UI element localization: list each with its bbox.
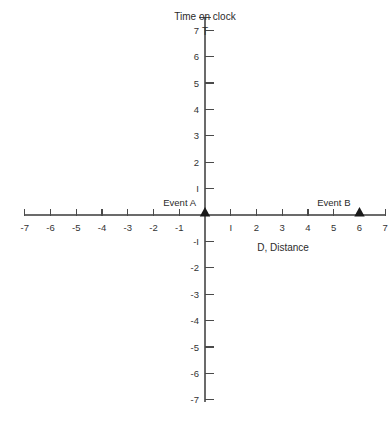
y-tick-label: I bbox=[196, 183, 199, 194]
y-tick-label: 2 bbox=[194, 157, 199, 168]
y-tick-label: 7 bbox=[194, 25, 199, 36]
y-tick-label: -2 bbox=[191, 262, 199, 273]
x-tick-label: -3 bbox=[124, 222, 132, 233]
x-tick-label: -6 bbox=[46, 222, 54, 233]
x-tick-label: 3 bbox=[280, 222, 285, 233]
y-tick-label: -6 bbox=[191, 368, 199, 379]
x-tick-label: I bbox=[229, 222, 232, 233]
x-axis-title: D, Distance bbox=[257, 242, 309, 253]
spacetime-diagram: -7-6-5-4-3-2-1I234567 765432I-I-2-3-4-5-… bbox=[0, 0, 392, 428]
y-tick-label: -I bbox=[193, 236, 199, 247]
y-tick-label: 5 bbox=[194, 78, 199, 89]
y-tick-label: -7 bbox=[191, 394, 199, 405]
event-label: Event A bbox=[163, 197, 196, 208]
y-axis-symbol: T bbox=[202, 26, 208, 37]
y-tick-label: -4 bbox=[191, 315, 199, 326]
x-tick-label: -7 bbox=[21, 222, 29, 233]
plot-canvas: -7-6-5-4-3-2-1I234567 765432I-I-2-3-4-5-… bbox=[0, 0, 392, 428]
x-tick-label: 7 bbox=[383, 222, 388, 233]
x-tick-label: 4 bbox=[305, 222, 310, 233]
x-tick-label: -1 bbox=[175, 222, 183, 233]
y-tick-label: 6 bbox=[194, 51, 199, 62]
plot-title: Time on clock bbox=[174, 11, 236, 22]
y-tick-label: -5 bbox=[191, 342, 199, 353]
event-label: Event B bbox=[317, 197, 350, 208]
y-tick-label: 3 bbox=[194, 130, 199, 141]
x-tick-label: 5 bbox=[331, 222, 336, 233]
y-tick-label: 4 bbox=[194, 104, 199, 115]
y-tick-label: -3 bbox=[191, 289, 199, 300]
x-tick-label: -5 bbox=[72, 222, 80, 233]
x-tick-label: 6 bbox=[357, 222, 362, 233]
x-tick-label: -2 bbox=[149, 222, 157, 233]
x-tick-label: -4 bbox=[98, 222, 106, 233]
x-tick-label: 2 bbox=[254, 222, 259, 233]
